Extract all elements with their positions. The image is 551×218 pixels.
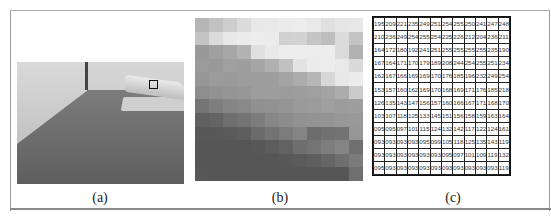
pixel-cell xyxy=(293,113,307,127)
pixel-cell xyxy=(209,32,223,46)
pixel-cell xyxy=(223,32,237,46)
pixel-value-cell: 093 xyxy=(430,162,441,175)
pixel-cell xyxy=(293,99,307,113)
pixel-cell xyxy=(209,72,223,86)
pixel-value-cell: 211 xyxy=(498,31,509,44)
pixel-cell xyxy=(195,18,209,32)
pixel-cell xyxy=(265,72,279,86)
pixel-cell xyxy=(279,113,293,127)
pixel-cell xyxy=(307,72,321,86)
pixel-value-cell: 176 xyxy=(441,70,452,83)
pixel-value-cell: 135 xyxy=(385,96,396,109)
pixel-value-cell: 119 xyxy=(498,135,509,148)
pixel-value-cell: 249 xyxy=(396,31,407,44)
caption-a: (a) xyxy=(70,190,130,206)
pixel-cell xyxy=(279,59,293,73)
pixel-value-cell: 162 xyxy=(374,70,385,83)
pixel-cell xyxy=(279,32,293,46)
pixel-cell xyxy=(209,140,223,154)
pixel-value-cell: 255 xyxy=(464,44,475,57)
pixel-cell xyxy=(223,72,237,86)
pixel-cell xyxy=(293,127,307,141)
pixel-value-cell: 142 xyxy=(453,122,464,135)
pixel-cell xyxy=(293,140,307,154)
pixel-cell xyxy=(335,18,349,32)
pixel-cell xyxy=(251,127,265,141)
table-row: 210236249254255254225226212204236211 xyxy=(374,31,510,44)
pixel-value-cell: 151 xyxy=(441,109,452,122)
pixel-value-cell: 171 xyxy=(475,96,486,109)
pixel-value-cell: 170 xyxy=(407,57,418,70)
pixel-cell xyxy=(349,167,363,181)
table-row: 164172180192241251255255255255235190 xyxy=(374,44,510,57)
pixel-cell xyxy=(223,59,237,73)
pixel-value-cell: 208 xyxy=(441,57,452,70)
pixel-value-cell: 156 xyxy=(419,96,430,109)
pixel-cell xyxy=(209,59,223,73)
pixel-value-cell: 101 xyxy=(407,122,418,135)
pixel-cell xyxy=(321,140,335,154)
pixel-value-cell: 209 xyxy=(385,18,396,31)
table-row: 126135143147156157160166167171168170 xyxy=(374,96,510,109)
pixel-cell xyxy=(195,154,209,168)
pixel-cell xyxy=(223,99,237,113)
pixel-value-cell: 167 xyxy=(385,70,396,83)
pixel-cell xyxy=(209,99,223,113)
pixel-cell xyxy=(209,127,223,141)
pixel-value-cell: 118 xyxy=(396,109,407,122)
pixel-value-cell: 093 xyxy=(396,135,407,148)
pixel-value-cell: 164 xyxy=(498,109,509,122)
pixel-value-cell: 254 xyxy=(441,18,452,31)
caption-b: (b) xyxy=(250,190,310,206)
pixel-cell xyxy=(279,140,293,154)
pixel-cell xyxy=(251,140,265,154)
pixel-cell xyxy=(349,72,363,86)
pixel-cell xyxy=(265,154,279,168)
pixel-cell xyxy=(349,127,363,141)
pixel-cell xyxy=(237,32,251,46)
pixel-value-cell: 143 xyxy=(396,96,407,109)
pixel-cell xyxy=(237,86,251,100)
pixel-value-cell: 236 xyxy=(385,31,396,44)
pixel-cell xyxy=(335,154,349,168)
stapler-base xyxy=(121,97,184,111)
pixel-cell xyxy=(307,18,321,32)
pixel-cell xyxy=(349,86,363,100)
pixel-cell xyxy=(223,127,237,141)
pixel-value-cell: 254 xyxy=(430,31,441,44)
pixel-cell xyxy=(349,45,363,59)
pixel-value-cell: 244 xyxy=(453,57,464,70)
pixel-cell xyxy=(265,18,279,32)
pixel-cell xyxy=(335,32,349,46)
pixel-cell xyxy=(307,99,321,113)
pixel-value-cell: 235 xyxy=(487,44,498,57)
pixel-cell xyxy=(251,86,265,100)
pixel-cell xyxy=(237,154,251,168)
pixel-value-cell: 255 xyxy=(419,31,430,44)
pixel-cell xyxy=(265,45,279,59)
pixel-value-cell: 095 xyxy=(374,162,385,175)
pixel-value-cell: 185 xyxy=(453,70,464,83)
pixel-cell xyxy=(349,32,363,46)
pixel-value-cell: 249 xyxy=(487,70,498,83)
pixel-value-cell: 095 xyxy=(441,148,452,161)
pixel-value-cell: 254 xyxy=(464,57,475,70)
pixel-cell xyxy=(335,113,349,127)
pixel-cell xyxy=(335,72,349,86)
pixel-value-cell: 166 xyxy=(396,70,407,83)
pixel-value-cell: 241 xyxy=(475,18,486,31)
pixel-value-cell: 093 xyxy=(430,148,441,161)
pixel-cell xyxy=(195,127,209,141)
pixel-value-cell: 254 xyxy=(407,31,418,44)
pixel-cell xyxy=(321,113,335,127)
pixel-cell xyxy=(251,99,265,113)
pixel-cell xyxy=(321,127,335,141)
pixel-value-cell: 132 xyxy=(441,122,452,135)
pixel-cell xyxy=(279,167,293,181)
pixel-cell xyxy=(293,86,307,100)
pixel-value-cell: 093 xyxy=(385,135,396,148)
pixel-cell xyxy=(237,59,251,73)
pixel-value-cell: 170 xyxy=(430,70,441,83)
pixel-value-cell: 093 xyxy=(374,135,385,148)
pixel-value-cell: 255 xyxy=(475,57,486,70)
